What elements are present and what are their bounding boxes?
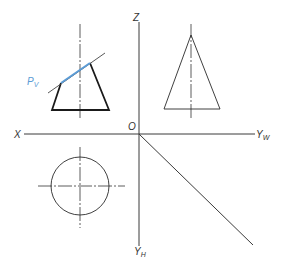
pv-subscript: V — [34, 81, 40, 88]
plane-pv-label: PV — [27, 76, 40, 88]
yw-axis-label: YW — [256, 129, 271, 141]
yh-subscript: H — [141, 251, 147, 258]
z-axis-label: Z — [132, 12, 140, 23]
yw-subscript: W — [263, 134, 271, 141]
top-view — [38, 147, 125, 228]
x-axis-label: X — [13, 129, 21, 140]
yh-axis-label: YH — [134, 246, 147, 258]
side-view-triangle — [164, 35, 220, 109]
origin-label: O — [128, 121, 136, 132]
cutting-plane-section — [61, 63, 90, 83]
side-view — [164, 24, 220, 119]
front-view: PV — [27, 24, 109, 118]
projection-diagram: X Z O YW YH PV — [0, 0, 282, 272]
projection-axes — [24, 22, 255, 246]
miter-line-45deg — [139, 134, 253, 245]
